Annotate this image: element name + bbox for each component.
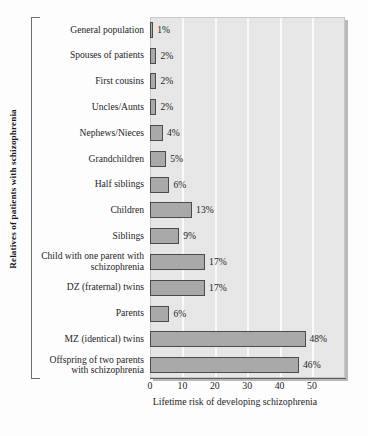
bar-value-label: 17% [209, 283, 227, 293]
x-axis-title-text: Lifetime risk of developing schizophreni… [150, 396, 320, 409]
category-label: Parents [40, 308, 144, 319]
bar-value-label: 2% [160, 102, 173, 112]
bar-value-label: 13% [196, 205, 214, 215]
category-label: Siblings [40, 231, 144, 242]
x-tick-label: 20 [210, 380, 220, 391]
bar-value-label: 1% [157, 25, 170, 35]
category-label: DZ (fraternal) twins [40, 282, 144, 293]
y-axis-title-text: Relatives of patients with schizophrenia [8, 109, 18, 269]
x-axis-ticks: 01020304050 [150, 380, 346, 394]
bar[interactable] [150, 202, 192, 218]
bar-value-label: 9% [183, 231, 196, 241]
bar[interactable] [150, 22, 153, 38]
bar[interactable] [150, 125, 163, 141]
bar-value-label: 4% [167, 128, 180, 138]
bar[interactable] [150, 151, 166, 167]
x-tick-label: 50 [307, 380, 317, 391]
category-label: Offspring of two parents with schizophre… [40, 355, 144, 376]
x-tick-label: 0 [148, 380, 153, 391]
bars-layer: 1%2%2%2%4%5%6%13%9%17%17%6%48%46% [150, 17, 345, 378]
bar-value-label: 17% [209, 257, 227, 267]
category-label: First cousins [40, 76, 144, 87]
bar-value-label: 6% [173, 180, 186, 190]
bar[interactable] [150, 177, 169, 193]
category-axis-bracket [31, 17, 40, 379]
bar[interactable] [150, 280, 205, 296]
bar[interactable] [150, 48, 156, 64]
bar[interactable] [150, 73, 156, 89]
category-label: General population [40, 25, 144, 36]
bar-value-label: 5% [170, 154, 183, 164]
bar[interactable] [150, 306, 169, 322]
bar[interactable] [150, 357, 299, 373]
bar[interactable] [150, 331, 306, 347]
bar-value-label: 2% [160, 51, 173, 61]
bar-value-label: 6% [173, 309, 186, 319]
x-tick-label: 30 [242, 380, 252, 391]
x-tick-label: 40 [275, 380, 285, 391]
category-label: Nephews/Nieces [40, 128, 144, 139]
category-label: Half siblings [40, 179, 144, 190]
category-label: Spouses of patients [40, 50, 144, 61]
bar[interactable] [150, 228, 179, 244]
category-label: Child with one parent with schizophrenia [40, 251, 144, 272]
y-axis-title: Relatives of patients with schizophrenia [0, 0, 26, 378]
bar-value-label: 48% [310, 334, 328, 344]
chart-figure: Relatives of patients with schizophrenia… [0, 0, 368, 436]
category-label: Uncles/Aunts [40, 102, 144, 113]
x-tick-label: 10 [177, 380, 187, 391]
category-label: Children [40, 205, 144, 216]
category-label: MZ (identical) twins [40, 334, 144, 345]
category-label: Grandchildren [40, 154, 144, 165]
x-axis-line [150, 378, 346, 379]
bar-value-label: 2% [160, 76, 173, 86]
bar-value-label: 46% [303, 360, 321, 370]
bar[interactable] [150, 254, 205, 270]
bar[interactable] [150, 99, 156, 115]
category-label-column: General populationSpouses of patientsFir… [40, 17, 148, 379]
